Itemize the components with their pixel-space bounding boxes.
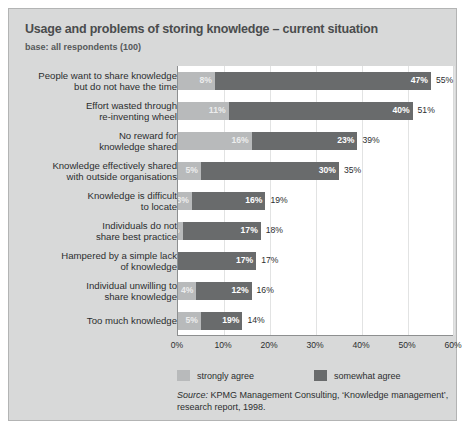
legend-swatch [177, 370, 190, 381]
bar-row: 8%47%55% [178, 72, 454, 90]
bar-total-label: 17% [261, 255, 278, 265]
source-label: Source: [177, 390, 208, 400]
x-axis-ticks: 0%10%20%30%40%50%60% [177, 338, 453, 354]
category-label-line: knowledge shared [25, 141, 177, 153]
bar-value-label: 19% [222, 315, 239, 325]
bar-segment-strongly-agree: 8% [178, 72, 215, 90]
bar-segment-strongly-agree: 5% [178, 162, 201, 180]
bar-row: 16%23%39% [178, 132, 454, 150]
bar-total-label: 35% [344, 165, 361, 175]
bar-row: 11%40%51% [178, 102, 454, 120]
x-tick-label: 50% [398, 340, 415, 350]
chart-card: Usage and problems of storing knowledge … [8, 8, 457, 421]
bar-segment-somewhat-agree: 17% [183, 222, 261, 240]
category-label-line: Too much knowledge [25, 315, 177, 327]
legend-label: strongly agree [197, 371, 254, 381]
category-label-line: share best practice [25, 231, 177, 243]
bar-value-label: 11% [209, 105, 226, 115]
bar-segment-somewhat-agree: 47% [215, 72, 431, 90]
bar-total-label: 55% [436, 75, 453, 85]
bar-value-label: 5% [186, 315, 198, 325]
source-note: Source: KPMG Management Consulting, ‘Kno… [177, 390, 462, 413]
legend-label: somewhat agree [334, 371, 401, 381]
bar-value-label: 1% [178, 225, 180, 235]
category-label-line: Hampered by a simple lack [25, 250, 177, 262]
bar-row: 1%17%18% [178, 222, 454, 240]
bar-value-label: 47% [411, 75, 428, 85]
bar-value-label: 16% [231, 135, 248, 145]
bar-row: 5%19%14% [178, 312, 454, 330]
chart-subtitle: base: all respondents (100) [25, 42, 141, 52]
bar-total-label: 14% [247, 315, 264, 325]
bar-row: 3%16%19% [178, 192, 454, 210]
category-label-line: of knowledge [25, 261, 177, 273]
bar-value-label: 17% [241, 225, 258, 235]
bar-segment-somewhat-agree: 30% [201, 162, 339, 180]
x-tick-label: 20% [260, 340, 277, 350]
bar-value-label: 23% [337, 135, 354, 145]
bar-value-label: 12% [231, 285, 248, 295]
bar-value-label: 3% [178, 195, 189, 205]
plot-area: 8%47%55%11%40%51%16%23%39%5%30%35%3%16%1… [177, 66, 453, 336]
plot-wrapper: People want to share knowledgebut do not… [25, 66, 453, 351]
category-label-line: to locate [25, 201, 177, 213]
category-label-line: Effort wasted through [25, 100, 177, 112]
category-label: Hampered by a simple lackof knowledge [25, 250, 177, 273]
bar-total-label: 39% [362, 135, 379, 145]
bar-value-label: 17% [236, 255, 253, 265]
bar-segment-strongly-agree: 11% [178, 102, 229, 120]
category-label: Individual unwilling toshare knowledge [25, 280, 177, 303]
category-label-line: re-inventing wheel [25, 111, 177, 123]
bar-row: 5%30%35% [178, 162, 454, 180]
category-label-line: No reward for [25, 130, 177, 142]
bar-segment-somewhat-agree: 23% [252, 132, 358, 150]
x-tick-label: 0% [171, 340, 183, 350]
bar-segment-strongly-agree: 3% [178, 192, 192, 210]
bar-total-label: 16% [257, 285, 274, 295]
bar-total-label: 51% [418, 105, 435, 115]
gridline [454, 66, 455, 335]
bar-total-label: 18% [266, 225, 283, 235]
legend-item: strongly agree [177, 369, 254, 382]
bar-value-label: 4% [181, 285, 193, 295]
x-tick-label: 60% [444, 340, 461, 350]
bar-segment-somewhat-agree: 19% [201, 312, 242, 330]
category-label: Individuals do notshare best practice [25, 220, 177, 243]
category-label: People want to share knowledgebut do not… [25, 70, 177, 93]
category-label: Knowledge is difficultto locate [25, 190, 177, 213]
bar-segment-strongly-agree: 16% [178, 132, 252, 150]
x-tick-label: 30% [306, 340, 323, 350]
category-label-line: share knowledge [25, 291, 177, 303]
bar-row: 4%12%16% [178, 282, 454, 300]
chart-title: Usage and problems of storing knowledge … [25, 22, 378, 36]
source-text: KPMG Management Consulting, ‘Knowledge m… [177, 390, 448, 412]
bar-segment-somewhat-agree: 17% [178, 252, 256, 270]
bar-total-label: 19% [270, 195, 287, 205]
bar-value-label: 8% [199, 75, 211, 85]
category-label: No reward forknowledge shared [25, 130, 177, 153]
category-label-line: Knowledge effectively shared [25, 160, 177, 172]
category-label: Too much knowledge [25, 315, 177, 327]
bar-segment-somewhat-agree: 12% [196, 282, 251, 300]
category-axis-labels: People want to share knowledgebut do not… [25, 66, 177, 336]
category-label-line: Individuals do not [25, 220, 177, 232]
x-tick-label: 40% [352, 340, 369, 350]
bar-segment-somewhat-agree: 16% [192, 192, 266, 210]
bar-value-label: 16% [245, 195, 262, 205]
category-label-line: with outside organisations [25, 171, 177, 183]
bar-value-label: 30% [319, 165, 336, 175]
legend-swatch [314, 370, 327, 381]
category-label-line: Individual unwilling to [25, 280, 177, 292]
bar-value-label: 40% [392, 105, 409, 115]
category-label: Effort wasted throughre-inventing wheel [25, 100, 177, 123]
bar-row: 17%17% [178, 252, 454, 270]
bar-segment-somewhat-agree: 40% [229, 102, 413, 120]
bar-value-label: 5% [186, 165, 198, 175]
category-label-line: but do not have the time [25, 81, 177, 93]
bar-segment-strongly-agree: 5% [178, 312, 201, 330]
x-tick-label: 10% [214, 340, 231, 350]
category-label-line: People want to share knowledge [25, 70, 177, 82]
bar-segment-strongly-agree: 4% [178, 282, 196, 300]
category-label: Knowledge effectively sharedwith outside… [25, 160, 177, 183]
legend-item: somewhat agree [314, 369, 401, 382]
